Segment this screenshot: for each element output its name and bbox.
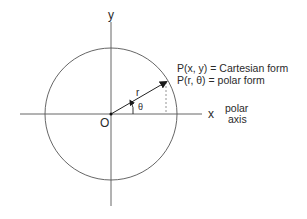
polar-coordinates-diagram: y x O r θ P(x, y) = Cartesian form P(r, … bbox=[0, 0, 307, 219]
angle-arc bbox=[131, 102, 133, 114]
origin-label: O bbox=[100, 116, 109, 130]
x-axis-label: x bbox=[208, 107, 214, 121]
origin-point bbox=[110, 113, 113, 116]
angle-label: θ bbox=[138, 102, 143, 112]
polar-axis-label-line2: axis bbox=[228, 113, 247, 125]
cartesian-form-label: P(x, y) = Cartesian form bbox=[177, 62, 288, 74]
polar-form-label: P(r, θ) = polar form bbox=[177, 74, 265, 86]
radius-label: r bbox=[136, 87, 140, 98]
y-axis-label: y bbox=[108, 8, 114, 22]
